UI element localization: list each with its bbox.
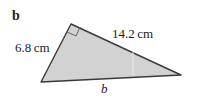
right-triangle bbox=[41, 24, 181, 82]
hypotenuse-label: b bbox=[101, 81, 108, 97]
long-leg-label: 14.2 cm bbox=[112, 26, 153, 42]
part-label: b bbox=[12, 8, 20, 24]
figure-triangle-b: b 6.8 cm 14.2 cm b bbox=[0, 0, 197, 107]
short-leg-label: 6.8 cm bbox=[15, 40, 50, 56]
